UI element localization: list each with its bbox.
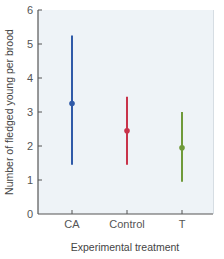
y-tick-label: 1: [27, 174, 33, 186]
y-axis-title: Number of fledged young per brood: [3, 29, 15, 195]
x-tick-label: T: [179, 218, 186, 230]
y-tick-label: 3: [27, 106, 33, 118]
error-bar-chart: 0123456 CAControlT Number of fledged you…: [0, 0, 224, 259]
mean-point: [179, 145, 185, 151]
y-tick-label: 5: [27, 38, 33, 50]
mean-point: [124, 128, 130, 134]
plot-area: [38, 10, 213, 214]
x-axis-title: Experimental treatment: [71, 241, 180, 253]
y-tick-label: 6: [27, 4, 33, 16]
y-tick-label: 2: [27, 140, 33, 152]
y-tick-label: 0: [27, 208, 33, 220]
x-tick-label: Control: [109, 218, 144, 230]
x-tick-label: CA: [64, 218, 80, 230]
y-tick-label: 4: [27, 72, 33, 84]
mean-point: [69, 101, 75, 107]
